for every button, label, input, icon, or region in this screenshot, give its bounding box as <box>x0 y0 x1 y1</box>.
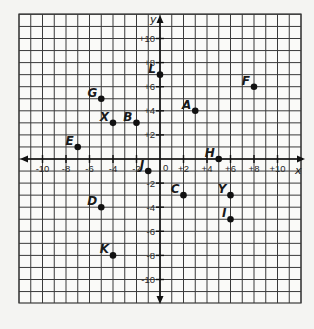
origin-label: 0 <box>163 162 168 173</box>
point-dot <box>215 156 222 163</box>
x-tick-label: -10 <box>36 163 50 174</box>
point-dot <box>227 216 234 223</box>
point-label: D <box>87 194 97 208</box>
x-tick-label: -4 <box>109 163 117 174</box>
point-label: C <box>171 182 180 196</box>
x-tick-label: +8 <box>249 163 260 174</box>
point-label: F <box>242 74 251 88</box>
y-tick-label: -10 <box>141 274 155 285</box>
x-axis-label: x <box>294 164 302 177</box>
point-label: L <box>148 62 156 76</box>
point-label: H <box>205 146 215 160</box>
point-label: A <box>181 98 191 112</box>
point-dot <box>110 120 117 127</box>
y-axis-label: y <box>149 13 157 26</box>
point-dot <box>145 168 152 175</box>
point-dot <box>180 192 187 199</box>
y-tick-label: -6 <box>147 226 155 237</box>
point-label: G <box>87 86 97 100</box>
x-tick-label: +6 <box>225 163 236 174</box>
coordinate-plane: xy0 -10-8-6-4-2+2+4+6+8+10+10+8+6+4+2-2-… <box>0 0 314 329</box>
point-label: I <box>222 206 227 220</box>
y-tick-label: +4 <box>144 105 155 116</box>
point-dot <box>110 252 117 259</box>
x-tick-label: -8 <box>62 163 70 174</box>
point-dot <box>98 95 105 102</box>
point-label: B <box>123 110 132 124</box>
point-label: Y <box>218 182 228 196</box>
point-dot <box>74 144 81 151</box>
x-tick-label: +10 <box>269 163 285 174</box>
point-dot <box>227 192 234 199</box>
point-label: E <box>66 134 75 148</box>
x-tick-label: -6 <box>85 163 93 174</box>
y-tick-label: -8 <box>147 250 155 261</box>
y-tick-label: +10 <box>139 33 155 44</box>
y-tick-label: -2 <box>147 178 155 189</box>
point-label: X <box>99 110 110 124</box>
x-tick-label: +4 <box>202 163 213 174</box>
point-dot <box>133 120 140 127</box>
y-tick-label: +6 <box>144 81 155 92</box>
point-dot <box>98 204 105 211</box>
point-dot <box>251 83 258 90</box>
point-dot <box>157 71 164 78</box>
y-tick-label: +2 <box>144 129 155 140</box>
point-label: J <box>138 158 145 172</box>
y-tick-label: -4 <box>147 202 155 213</box>
point-dot <box>192 108 199 115</box>
x-tick-label: +2 <box>178 163 189 174</box>
